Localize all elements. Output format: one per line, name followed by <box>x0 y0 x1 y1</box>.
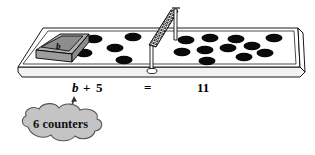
equation-result: 11 <box>197 80 209 95</box>
algebra-mat-diagram: b b <box>0 0 315 155</box>
counter <box>199 57 216 65</box>
mat-front-edge <box>18 67 305 77</box>
arrow-head <box>71 96 77 102</box>
counter <box>202 34 219 42</box>
counter <box>178 36 195 44</box>
counters-callout: 6 counters <box>22 104 101 141</box>
equation-variable: b <box>72 80 79 95</box>
counter <box>228 35 245 43</box>
counter <box>197 46 214 54</box>
net-post-left <box>150 44 153 70</box>
counter <box>236 53 253 61</box>
equation-addend: 5 <box>96 80 103 95</box>
net-base <box>147 68 157 73</box>
counter <box>244 42 261 50</box>
counter <box>116 56 133 64</box>
counter <box>174 48 191 56</box>
counter <box>266 34 283 42</box>
equation-line: b + 5 = 11 <box>72 80 209 95</box>
equation-equals: = <box>144 80 151 95</box>
counter <box>125 33 142 41</box>
net-post-right <box>174 9 177 40</box>
counter <box>220 44 237 52</box>
box-label: b <box>56 41 61 51</box>
equation-plus: + <box>83 80 90 95</box>
counter <box>107 44 124 52</box>
callout-label: 6 counters <box>33 117 88 131</box>
counter <box>257 49 274 57</box>
